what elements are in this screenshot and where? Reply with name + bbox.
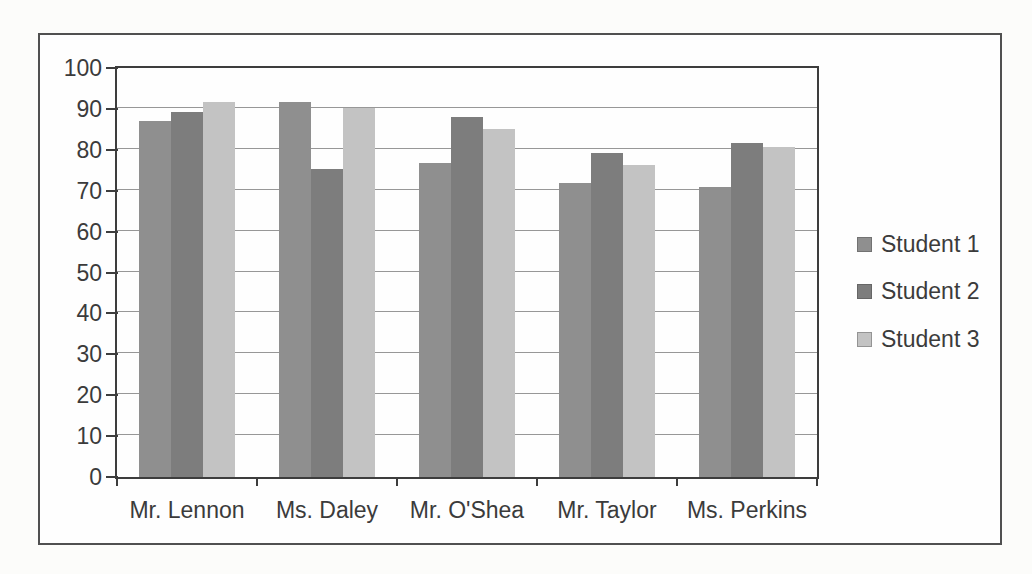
bar-series2-cat3 — [451, 117, 483, 477]
y-axis-label: 40 — [40, 299, 102, 327]
x-axis-tick — [116, 477, 118, 486]
category-label-2: Ms. Daley — [257, 495, 397, 525]
page: 0102030405060708090100Mr. LennonMs. Dale… — [0, 0, 1032, 574]
bar-series1-cat3 — [419, 163, 451, 477]
plot-area — [115, 66, 819, 479]
x-axis-tick — [536, 477, 538, 486]
y-axis-label: 50 — [40, 259, 102, 287]
y-axis-label: 30 — [40, 340, 102, 368]
x-axis-tick — [816, 477, 818, 486]
category-label-4: Mr. Taylor — [537, 495, 677, 525]
legend-swatch-icon — [857, 332, 872, 347]
category-label-3: Mr. O'Shea — [397, 495, 537, 525]
bar-series2-cat1 — [171, 112, 203, 477]
x-axis-tick — [676, 477, 678, 486]
y-axis-label: 10 — [40, 422, 102, 450]
bar-series2-cat2 — [311, 169, 343, 477]
bar-group-2 — [257, 68, 397, 477]
chart-frame: 0102030405060708090100Mr. LennonMs. Dale… — [38, 33, 1002, 545]
bar-series3-cat1 — [203, 102, 235, 477]
bar-series2-cat5 — [731, 143, 763, 477]
y-axis-label: 70 — [40, 177, 102, 205]
bar-series1-cat1 — [139, 121, 171, 477]
x-axis-tick — [256, 477, 258, 486]
bar-group-4 — [537, 68, 677, 477]
y-axis-label: 100 — [40, 54, 102, 82]
legend-swatch-icon — [857, 237, 872, 252]
bar-group-3 — [397, 68, 537, 477]
y-axis-label: 90 — [40, 95, 102, 123]
bar-group-5 — [677, 68, 817, 477]
bar-series3-cat3 — [483, 129, 515, 477]
legend-item-1: Student 1 — [857, 230, 979, 258]
y-axis-label: 80 — [40, 136, 102, 164]
legend-label: Student 1 — [881, 231, 979, 258]
legend-label: Student 3 — [881, 326, 979, 353]
y-axis-label: 0 — [40, 463, 102, 491]
bar-group-1 — [117, 68, 257, 477]
category-label-5: Ms. Perkins — [677, 495, 817, 525]
bar-series1-cat4 — [559, 183, 591, 477]
bar-series1-cat2 — [279, 102, 311, 477]
legend-label: Student 2 — [881, 278, 979, 305]
y-axis-label: 60 — [40, 218, 102, 246]
bar-series2-cat4 — [591, 153, 623, 477]
bar-series3-cat5 — [763, 147, 795, 477]
bar-series3-cat2 — [343, 108, 375, 477]
bar-series3-cat4 — [623, 165, 655, 477]
category-label-1: Mr. Lennon — [117, 495, 257, 525]
legend-item-3: Student 3 — [857, 325, 979, 353]
legend-swatch-icon — [857, 284, 872, 299]
bar-series1-cat5 — [699, 187, 731, 477]
y-axis-label: 20 — [40, 381, 102, 409]
x-axis-tick — [396, 477, 398, 486]
legend-item-2: Student 2 — [857, 278, 979, 306]
